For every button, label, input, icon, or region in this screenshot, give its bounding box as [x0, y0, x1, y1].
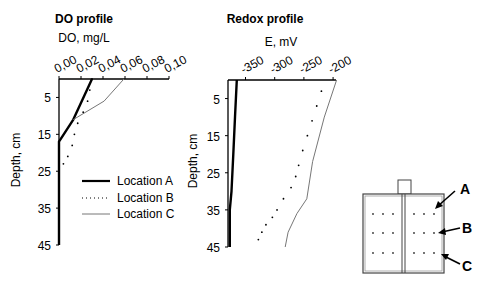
- do-x-axis-label: DO, mg/L: [58, 31, 110, 45]
- box-outline: [363, 194, 444, 273]
- inset-label-b: B: [462, 220, 472, 236]
- sampling-point: [372, 232, 374, 234]
- inset-label-a: A: [460, 181, 470, 197]
- do-x-tick-labels: 0,000,020,040,060,080,10: [52, 52, 189, 75]
- legend-label-b: Location B: [117, 191, 174, 205]
- redox-x-tick-label: -300: [268, 53, 296, 77]
- redox-series-location-b: [257, 90, 322, 240]
- sampling-point: [423, 252, 425, 254]
- do-y-tick-labels: 515253545: [38, 91, 52, 253]
- redox-series-location-a: [230, 80, 237, 247]
- legend-label-a: Location A: [117, 174, 173, 188]
- sampling-point: [382, 252, 384, 254]
- sampling-point: [413, 213, 415, 215]
- sampling-point: [433, 213, 435, 215]
- redox-y-tick-label: 35: [207, 204, 221, 218]
- sampling-point: [433, 232, 435, 234]
- do-y-tick-label: 35: [38, 202, 52, 216]
- redox-profile-chart: Redox profile E, mV -350-300-250-200 Dep…: [186, 12, 354, 255]
- legend: Location A Location B Location C: [82, 174, 175, 221]
- do-x-tick-label: 0,10: [162, 52, 189, 75]
- redox-x-axis-label: E, mV: [265, 35, 298, 49]
- sampling-point: [392, 213, 394, 215]
- redox-chart-title: Redox profile: [227, 12, 304, 26]
- redox-y-axis-label: Depth, cm: [186, 134, 200, 189]
- do-y-tick-label: 5: [44, 91, 51, 105]
- do-chart-title: DO profile: [55, 12, 113, 26]
- sampling-point: [433, 252, 435, 254]
- sampling-point: [413, 232, 415, 234]
- sampling-point: [372, 252, 374, 254]
- redox-series-location-c: [285, 80, 336, 247]
- do-y-tick-label: 25: [38, 165, 52, 179]
- sampling-point: [423, 232, 425, 234]
- sampling-point: [413, 252, 415, 254]
- redox-x-tick-label: -250: [297, 53, 325, 77]
- legend-label-c: Location C: [117, 207, 175, 221]
- inset-label-c: C: [462, 258, 472, 274]
- redox-x-tick-label: -350: [238, 53, 266, 77]
- redox-y-tick-label: 15: [207, 130, 221, 144]
- do-y-tick-label: 45: [38, 239, 52, 253]
- sampling-point: [392, 252, 394, 254]
- redox-axes: [225, 77, 336, 247]
- redox-y-tick-labels: 515253545: [207, 93, 221, 255]
- redox-y-tick-label: 25: [207, 167, 221, 181]
- box-tab: [398, 180, 411, 194]
- sampling-point: [423, 213, 425, 215]
- figure: DO profile DO, mg/L 0,000,020,040,060,08…: [0, 0, 486, 286]
- redox-y-tick-label: 5: [213, 93, 220, 107]
- redox-series: [230, 80, 337, 247]
- redox-x-tick-label: -200: [326, 53, 354, 77]
- do-y-tick-label: 15: [38, 128, 52, 142]
- do-profile-chart: DO profile DO, mg/L 0,000,020,040,060,08…: [9, 12, 189, 253]
- do-series: [58, 78, 124, 245]
- sampling-point: [382, 213, 384, 215]
- do-series-location-b: [58, 78, 93, 172]
- sampling-point: [392, 232, 394, 234]
- do-series-location-a: [59, 79, 92, 245]
- sampling-box-inset: A B C: [363, 180, 472, 274]
- redox-x-tick-labels: -350-300-250-200: [238, 53, 354, 77]
- do-series-location-c: [73, 79, 124, 120]
- sampling-point: [382, 232, 384, 234]
- sampling-point: [372, 213, 374, 215]
- redox-y-tick-label: 45: [207, 241, 221, 255]
- do-y-axis-label: Depth, cm: [9, 133, 23, 188]
